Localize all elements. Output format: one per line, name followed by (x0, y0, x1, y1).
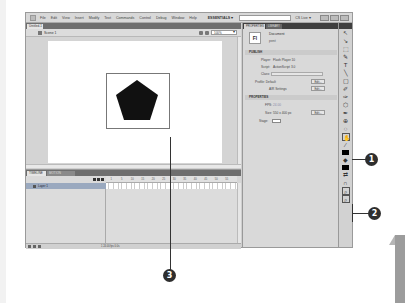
menu-debug[interactable]: Debug (156, 16, 167, 20)
page-margin (0, 0, 6, 303)
lasso-tool-icon[interactable]: ✎ (342, 53, 350, 61)
swap-colors-icon[interactable]: ⇄ (342, 171, 350, 179)
close-button[interactable] (340, 15, 349, 21)
menu-bar: File Edit View Insert Modify Text Comman… (26, 13, 352, 23)
callout-2-bracket (352, 204, 353, 222)
new-layer-icon[interactable] (28, 245, 31, 248)
frame-number: 35 (180, 176, 191, 182)
frame-ruler[interactable]: 1 5 10 15 20 25 30 35 40 45 50 55 (106, 176, 237, 183)
text-tool-icon[interactable]: T (342, 61, 350, 69)
class-input[interactable] (271, 72, 323, 76)
deco-tool-icon[interactable]: ⬡ (342, 101, 350, 109)
stage-horizontal-scrollbar[interactable] (26, 164, 241, 168)
edit-bar: Scene 1 100% (26, 29, 241, 37)
document-header: Fl Document pent (247, 31, 337, 47)
tab-properties[interactable]: PROPERTIES (244, 24, 265, 29)
app-logo-icon (30, 15, 36, 21)
delete-layer-icon[interactable] (38, 245, 41, 248)
pencil-tool-icon[interactable]: ✐ (342, 85, 350, 93)
stage-color-swatch[interactable] (272, 119, 281, 123)
tab-library[interactable]: LIBRARY (266, 24, 282, 29)
pasteboard (26, 37, 241, 168)
menu-modify[interactable]: Modify (89, 16, 100, 20)
stage-vertical-scrollbar[interactable] (237, 37, 241, 168)
menu-control[interactable]: Control (139, 16, 151, 20)
page-side-tab (395, 235, 405, 303)
eraser-tool-icon[interactable]: ◌ (342, 125, 350, 133)
timeline-panel: TIMELINE MOTION EDITOR Layer 1 1 5 10 15… (26, 169, 241, 249)
stage-color-label: Stage: (259, 119, 268, 123)
subselection-tool-icon[interactable]: ↘ (342, 37, 350, 45)
edit-symbol-icon[interactable] (205, 31, 209, 35)
maximize-button[interactable] (330, 15, 339, 21)
zoom-out-tool-icon[interactable]: ⌕ (342, 195, 350, 203)
frame-number: 20 (148, 176, 159, 182)
menu-edit[interactable]: Edit (51, 16, 57, 20)
pentagon-shape[interactable] (115, 79, 159, 121)
frame-number: 10 (127, 176, 138, 182)
fill-color-swatch[interactable] (342, 165, 349, 170)
menu-help[interactable]: Help (189, 16, 196, 20)
doc-name[interactable]: pent (269, 39, 276, 43)
callout-1: 1 (365, 153, 378, 166)
free-transform-tool-icon[interactable]: ⬚ (342, 45, 350, 53)
help-search-input[interactable] (239, 15, 291, 21)
pen-tool-icon[interactable]: ✒ (342, 109, 350, 117)
cs-live-button[interactable]: CS Live ▾ (295, 16, 311, 20)
eyedropper-tool-icon[interactable]: ⊕ (342, 117, 350, 125)
layer-name[interactable]: Layer 1 (38, 184, 48, 188)
menu-commands[interactable]: Commands (116, 16, 134, 20)
zoom-select[interactable]: 100% (211, 30, 237, 35)
stage[interactable] (48, 41, 222, 163)
frame-number: 1 (106, 176, 117, 182)
properties-section[interactable]: PROPERTIES (245, 95, 337, 100)
menu-view[interactable]: View (62, 16, 70, 20)
line-tool-icon[interactable]: ╲ (342, 69, 350, 77)
player-value: Flash Player 10 (273, 58, 295, 62)
properties-panel: PROPERTIES LIBRARY Fl Document pent PUBL… (242, 23, 338, 247)
rectangle-tool-icon[interactable]: ▢ (342, 77, 350, 85)
outline-icon[interactable] (101, 178, 104, 181)
publish-section[interactable]: PUBLISH (245, 50, 337, 55)
menu-window[interactable]: Window (171, 16, 184, 20)
menu-file[interactable]: File (40, 16, 46, 20)
profile-edit-button[interactable]: Edit... (311, 79, 325, 84)
air-edit-button[interactable]: Edit... (311, 86, 325, 91)
stroke-color-swatch[interactable] (342, 150, 349, 155)
callout-3-leader (170, 137, 171, 270)
edit-scene-icon[interactable] (199, 31, 203, 35)
new-folder-icon[interactable] (33, 245, 36, 248)
minimize-button[interactable] (320, 15, 329, 21)
menu-text[interactable]: Text (104, 16, 111, 20)
selection-bounding-box[interactable] (106, 73, 170, 129)
snap-icon[interactable]: ∩ (342, 179, 350, 187)
zoom-in-tool-icon[interactable]: ⌕ (342, 187, 350, 195)
properties-tabs: PROPERTIES LIBRARY (243, 23, 338, 29)
scene-icon (38, 31, 42, 35)
layers-area (26, 189, 106, 244)
timeline-scrollbar[interactable] (237, 183, 241, 243)
size-edit-button[interactable]: Edit... (311, 110, 325, 115)
menu-insert[interactable]: Insert (75, 16, 84, 20)
workspace-switcher[interactable]: ESSENTIALS ▾ (208, 16, 234, 20)
scene-label[interactable]: Scene 1 (44, 31, 56, 35)
fps-value[interactable]: 24.00 (273, 103, 281, 107)
fill-icon[interactable]: ◆ (342, 156, 350, 164)
frame-number: 55 (222, 176, 233, 182)
callout-2: 2 (368, 207, 381, 220)
frames-area (106, 189, 237, 244)
brush-tool-icon[interactable]: ✑ (342, 93, 350, 101)
frame-number: 40 (190, 176, 201, 182)
ink-bottle-icon[interactable]: ⁄ (342, 141, 350, 149)
profile-label: Profile: Default (255, 80, 276, 84)
frame-number: 15 (138, 176, 149, 182)
stage-tools: 100% (199, 30, 237, 35)
eye-icon[interactable] (93, 178, 96, 181)
script-label: Script: (261, 65, 270, 69)
lock-icon[interactable] (97, 178, 100, 181)
size-label: Size: (265, 111, 272, 115)
selection-tool-icon[interactable]: ↖ (342, 29, 350, 37)
frame-number: 5 (117, 176, 128, 182)
hand-tool-icon[interactable]: ✋ (342, 133, 350, 141)
timeline-status: 1 24.00 fps 0.0s (101, 245, 119, 248)
